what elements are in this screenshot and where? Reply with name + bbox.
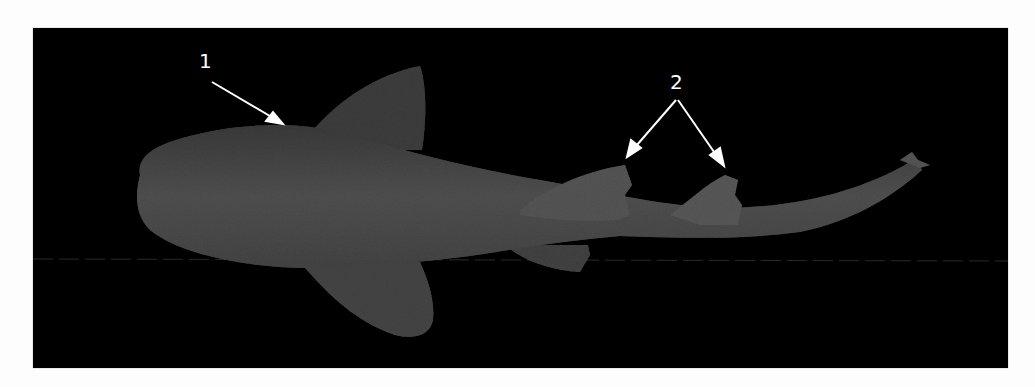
shark-torso [137, 125, 922, 268]
pelvic-fin [505, 245, 590, 272]
shark-body [137, 66, 930, 337]
pectoral-fin-bottom [300, 262, 433, 337]
scan-line [33, 259, 1008, 261]
shark-illustration [33, 28, 1008, 368]
annotation-label-1: 1 [199, 51, 212, 71]
annotation-label-2: 2 [670, 72, 683, 92]
second-dorsal-fin-2 [670, 175, 742, 225]
specimen-photo-panel [33, 28, 1008, 368]
arrow-1-head [266, 112, 283, 124]
